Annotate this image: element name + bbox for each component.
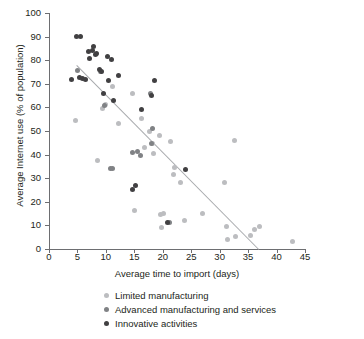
- data-point: [83, 77, 88, 82]
- data-point: [149, 93, 154, 98]
- x-tick-label: 30: [208, 252, 232, 262]
- x-tick-label: 20: [151, 252, 175, 262]
- legend-marker-icon: [104, 293, 109, 298]
- plot-area: [49, 13, 305, 249]
- data-point: [109, 57, 114, 62]
- data-point: [233, 234, 238, 239]
- data-point: [159, 225, 164, 230]
- data-point: [102, 103, 107, 108]
- y-tick-label: 100: [15, 8, 41, 18]
- data-point: [172, 165, 177, 170]
- x-tick-label: 0: [37, 252, 61, 262]
- legend-item[interactable]: Advanced manufacturing and services: [104, 302, 276, 316]
- data-point: [257, 224, 262, 229]
- data-point: [106, 78, 111, 83]
- data-point: [116, 121, 121, 126]
- data-point: [111, 98, 116, 103]
- y-axis-title: Average Internet use (% of population): [14, 21, 25, 231]
- data-point: [161, 211, 166, 216]
- x-tick-label: 5: [65, 252, 89, 262]
- data-point: [183, 167, 188, 172]
- data-point: [248, 233, 253, 238]
- data-point: [222, 180, 227, 185]
- x-tick-label: 25: [179, 252, 203, 262]
- x-tick-label: 10: [94, 252, 118, 262]
- legend-label: Innovative activities: [115, 318, 197, 329]
- data-point: [99, 69, 104, 74]
- data-point: [110, 166, 115, 171]
- x-tick-label: 40: [265, 252, 289, 262]
- legend-label: Advanced manufacturing and services: [115, 304, 276, 315]
- legend-item[interactable]: Innovative activities: [104, 316, 276, 330]
- data-point: [138, 153, 143, 158]
- data-point: [130, 187, 135, 192]
- data-point: [224, 224, 229, 229]
- legend-label: Limited manufacturing: [115, 290, 208, 301]
- data-point: [132, 208, 137, 213]
- scatter-chart: 0102030405060708090100 05101520253035404…: [0, 0, 364, 339]
- data-point: [95, 158, 100, 163]
- data-point: [78, 34, 83, 39]
- data-point: [133, 183, 138, 188]
- data-point: [75, 68, 80, 73]
- x-axis-title: Average time to import (days): [49, 268, 305, 279]
- data-point: [151, 151, 156, 156]
- data-point: [94, 51, 99, 56]
- data-point: [87, 56, 92, 61]
- data-point: [157, 133, 162, 138]
- x-axis-line: [49, 249, 305, 250]
- data-point: [130, 91, 135, 96]
- data-point: [69, 77, 74, 82]
- legend-item[interactable]: Limited manufacturing: [104, 288, 276, 302]
- data-point: [168, 139, 173, 144]
- data-point: [116, 73, 121, 78]
- legend-marker-icon: [104, 307, 109, 312]
- data-point: [110, 84, 115, 89]
- data-point: [232, 138, 237, 143]
- data-point: [150, 126, 155, 131]
- data-point: [91, 44, 96, 49]
- data-point: [152, 78, 157, 83]
- data-point: [139, 107, 144, 112]
- x-tick-label: 35: [236, 252, 260, 262]
- data-point: [73, 118, 78, 123]
- data-point: [142, 145, 147, 150]
- data-point: [290, 239, 295, 244]
- chart-legend: Limited manufacturingAdvanced manufactur…: [104, 288, 276, 330]
- data-point: [182, 218, 187, 223]
- data-point: [200, 211, 205, 216]
- data-point: [165, 220, 170, 225]
- legend-marker-icon: [104, 321, 109, 326]
- data-point: [225, 237, 230, 242]
- data-point: [178, 180, 183, 185]
- x-tick-label: 15: [122, 252, 146, 262]
- data-point: [139, 116, 144, 121]
- data-point: [130, 150, 135, 155]
- x-tick-label: 45: [293, 252, 317, 262]
- data-point: [171, 172, 176, 177]
